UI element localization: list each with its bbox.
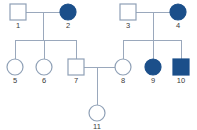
individual-label-7: 7	[74, 76, 78, 85]
individual-9-female-affected[interactable]	[145, 59, 161, 75]
individual-11-female-unaffected[interactable]	[89, 105, 105, 121]
connector-lines	[15, 12, 181, 105]
individual-8-female-unaffected[interactable]	[115, 59, 131, 75]
individual-label-1: 1	[16, 21, 20, 30]
individual-label-4: 4	[176, 21, 180, 30]
individual-6-female-unaffected[interactable]	[36, 59, 52, 75]
individual-5-female-unaffected[interactable]	[7, 59, 23, 75]
individual-2-female-affected[interactable]	[60, 4, 76, 20]
individual-1-male-unaffected[interactable]	[10, 4, 26, 20]
individual-label-11: 11	[93, 122, 101, 130]
individual-3-male-unaffected[interactable]	[120, 4, 136, 20]
individual-label-10: 10	[177, 76, 185, 85]
individual-4-female-affected[interactable]	[170, 4, 186, 20]
pedigree-chart: 1234567891011	[0, 0, 197, 130]
individual-label-3: 3	[126, 21, 130, 30]
individual-10-male-affected[interactable]	[173, 59, 189, 75]
individual-label-8: 8	[121, 76, 125, 85]
individual-7-male-unaffected[interactable]	[68, 59, 84, 75]
individual-label-6: 6	[42, 76, 46, 85]
individual-label-5: 5	[13, 76, 17, 85]
individual-symbols	[7, 4, 189, 121]
pedigree-canvas: 1234567891011	[0, 0, 197, 130]
individual-label-9: 9	[151, 76, 155, 85]
individual-label-2: 2	[66, 21, 70, 30]
